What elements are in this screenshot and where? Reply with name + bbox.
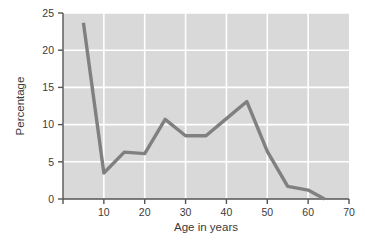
x-tick-label: 40 bbox=[221, 206, 233, 218]
y-tick-label: 15 bbox=[42, 81, 54, 93]
y-tick-label: 10 bbox=[42, 118, 54, 130]
x-tick-label: 50 bbox=[261, 206, 273, 218]
chart-canvas: 0510152025 10203040506070 Age in years P… bbox=[0, 0, 365, 242]
y-tick-label: 0 bbox=[48, 193, 54, 205]
y-tick-label: 25 bbox=[42, 7, 54, 19]
x-axis-title: Age in years bbox=[174, 221, 238, 233]
y-tick-label: 20 bbox=[42, 44, 54, 56]
x-tick-label: 30 bbox=[180, 206, 192, 218]
line-chart-figure: 0510152025 10203040506070 Age in years P… bbox=[0, 0, 365, 242]
x-tick-label: 70 bbox=[343, 206, 355, 218]
y-axis-title: Percentage bbox=[14, 77, 26, 136]
y-tick-label: 5 bbox=[48, 156, 54, 168]
x-tick-label: 60 bbox=[302, 206, 314, 218]
x-tick-label: 20 bbox=[139, 206, 151, 218]
x-tick-label: 10 bbox=[98, 206, 110, 218]
